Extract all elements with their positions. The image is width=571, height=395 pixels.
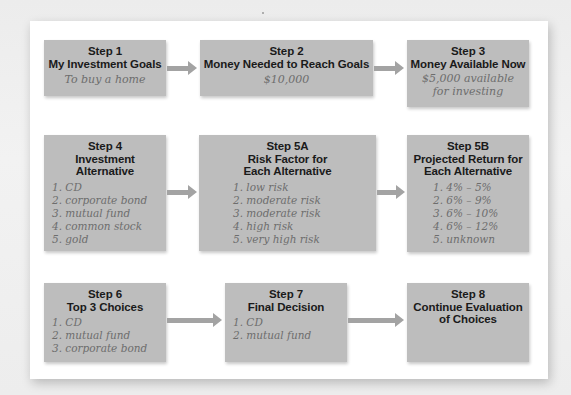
arrow-shaft bbox=[167, 190, 189, 195]
step-3-content-line-2: for investing bbox=[407, 86, 529, 99]
step-8-label: Step 8 bbox=[407, 288, 529, 301]
arrow-shaft bbox=[374, 66, 396, 71]
decorative-dot bbox=[262, 12, 264, 14]
list-item: 3. mutual fund bbox=[52, 207, 166, 220]
step-3-content-line-1: $5,000 available bbox=[407, 73, 529, 86]
list-item: 2. mutual fund bbox=[52, 329, 166, 342]
step-7-heading: Final Decision bbox=[225, 301, 347, 314]
step-8-box: Step 8 Continue Evaluation of Choices bbox=[407, 283, 529, 362]
arrow-shaft bbox=[167, 66, 189, 71]
step-1-box: Step 1 My Investment Goals To buy a home bbox=[44, 40, 166, 96]
list-item: 2. moderate risk bbox=[233, 194, 376, 207]
list-item: 5. unknown bbox=[433, 233, 529, 246]
step-8-title: Step 8 Continue Evaluation of Choices bbox=[407, 288, 529, 326]
step-5a-list: 1. low risk 2. moderate risk 3. moderate… bbox=[233, 181, 376, 247]
list-item: 5. gold bbox=[52, 233, 166, 246]
step-4-heading-line-1: Investment bbox=[44, 153, 166, 166]
step-2-content: $10,000 bbox=[200, 73, 373, 87]
list-item: 3. corporate bond bbox=[52, 342, 166, 355]
step-3-box: Step 3 Money Available Now $5,000 availa… bbox=[407, 40, 529, 107]
step-5a-title: Step 5A Risk Factor for Each Alternative bbox=[199, 140, 376, 178]
step-3-label: Step 3 bbox=[407, 45, 529, 58]
step-5b-heading-line-2: Each Alternative bbox=[407, 165, 529, 178]
step-2-title: Step 2 Money Needed to Reach Goals bbox=[200, 45, 373, 70]
step-5b-title: Step 5B Projected Return for Each Altern… bbox=[407, 140, 529, 178]
step-6-title: Step 6 Top 3 Choices bbox=[44, 288, 166, 313]
step-2-box: Step 2 Money Needed to Reach Goals $10,0… bbox=[200, 40, 373, 96]
step-6-list: 1. CD 2. mutual fund 3. corporate bond bbox=[52, 316, 166, 356]
step-3-content: $5,000 available for investing bbox=[407, 73, 529, 98]
list-item: 1. 4% – 5% bbox=[433, 181, 529, 194]
step-1-title: Step 1 My Investment Goals bbox=[44, 45, 166, 70]
list-item: 1. CD bbox=[52, 316, 166, 329]
list-item: 1. low risk bbox=[233, 181, 376, 194]
step-6-box: Step 6 Top 3 Choices 1. CD 2. mutual fun… bbox=[44, 283, 166, 362]
step-5b-list: 1. 4% – 5% 2. 6% – 9% 3. 6% – 10% 4. 6% … bbox=[433, 181, 529, 247]
step-5a-heading-line-2: Each Alternative bbox=[199, 165, 376, 178]
list-item: 5. very high risk bbox=[233, 233, 376, 246]
step-2-heading: Money Needed to Reach Goals bbox=[200, 58, 373, 71]
step-7-label: Step 7 bbox=[225, 288, 347, 301]
step-8-heading-line-1: Continue Evaluation bbox=[407, 301, 529, 314]
arrow-head-icon bbox=[396, 185, 405, 199]
arrow-step5a-to-step5b bbox=[377, 187, 405, 197]
step-6-label: Step 6 bbox=[44, 288, 166, 301]
list-item: 1. CD bbox=[233, 316, 347, 329]
list-item: 4. high risk bbox=[233, 220, 376, 233]
list-item: 3. 6% – 10% bbox=[433, 207, 529, 220]
list-item: 2. corporate bond bbox=[52, 194, 166, 207]
step-5a-label: Step 5A bbox=[199, 140, 376, 153]
step-8-heading-line-2: of Choices bbox=[407, 313, 529, 326]
step-6-heading: Top 3 Choices bbox=[44, 301, 166, 314]
arrow-step1-to-step2 bbox=[167, 63, 197, 73]
step-3-title: Step 3 Money Available Now bbox=[407, 45, 529, 70]
arrow-shaft bbox=[348, 318, 396, 323]
list-item: 4. common stock bbox=[52, 220, 166, 233]
list-item: 4. 6% – 12% bbox=[433, 220, 529, 233]
arrow-step7-to-step8 bbox=[348, 315, 404, 325]
arrow-head-icon bbox=[395, 61, 404, 75]
step-3-heading: Money Available Now bbox=[407, 58, 529, 71]
list-item: 2. mutual fund bbox=[233, 329, 347, 342]
step-7-title: Step 7 Final Decision bbox=[225, 288, 347, 313]
list-item: 1. CD bbox=[52, 181, 166, 194]
arrow-head-icon bbox=[188, 185, 197, 199]
arrow-step4-to-step5a bbox=[167, 187, 197, 197]
step-5b-label: Step 5B bbox=[407, 140, 529, 153]
step-1-heading: My Investment Goals bbox=[44, 58, 166, 71]
step-7-list: 1. CD 2. mutual fund bbox=[233, 316, 347, 342]
step-5b-heading-line-1: Projected Return for bbox=[407, 153, 529, 166]
arrow-shaft bbox=[377, 190, 397, 195]
step-2-amount-text: $10,000 bbox=[200, 73, 373, 87]
arrow-head-icon bbox=[188, 61, 197, 75]
step-5a-heading-line-1: Risk Factor for bbox=[199, 153, 376, 166]
step-7-box: Step 7 Final Decision 1. CD 2. mutual fu… bbox=[225, 283, 347, 362]
arrow-step6-to-step7 bbox=[167, 315, 222, 325]
step-1-goal-text: To buy a home bbox=[44, 73, 166, 87]
step-2-label: Step 2 bbox=[200, 45, 373, 58]
step-5b-box: Step 5B Projected Return for Each Altern… bbox=[407, 135, 529, 252]
step-1-label: Step 1 bbox=[44, 45, 166, 58]
step-5a-box: Step 5A Risk Factor for Each Alternative… bbox=[199, 135, 376, 251]
step-4-box: Step 4 Investment Alternative 1. CD 2. c… bbox=[44, 135, 166, 251]
step-4-title: Step 4 Investment Alternative bbox=[44, 140, 166, 178]
list-item: 2. 6% – 9% bbox=[433, 194, 529, 207]
step-4-list: 1. CD 2. corporate bond 3. mutual fund 4… bbox=[52, 181, 166, 247]
step-4-heading-line-2: Alternative bbox=[44, 165, 166, 178]
list-item: 3. moderate risk bbox=[233, 207, 376, 220]
step-1-content: To buy a home bbox=[44, 73, 166, 87]
step-4-label: Step 4 bbox=[44, 140, 166, 153]
arrow-head-icon bbox=[395, 313, 404, 327]
arrow-head-icon bbox=[213, 313, 222, 327]
arrow-shaft bbox=[167, 318, 214, 323]
arrow-step2-to-step3 bbox=[374, 63, 404, 73]
